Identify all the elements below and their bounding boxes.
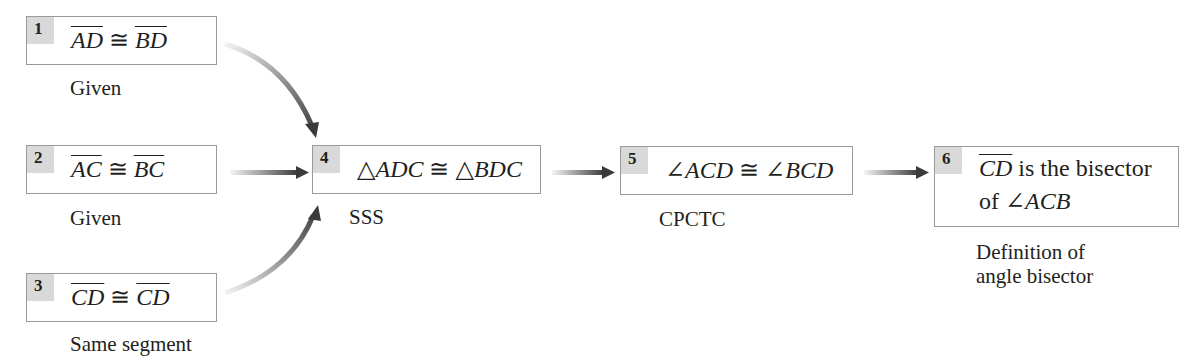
- angle-symbol: ∠: [765, 157, 785, 183]
- reason-line: Definition of: [976, 240, 1093, 264]
- angle-acb: ACB: [1025, 188, 1070, 214]
- step-statement: ∠ACD ≅ ∠BCD: [665, 156, 833, 184]
- statement-text: of: [979, 188, 999, 214]
- step-number-badge: 2: [27, 146, 54, 173]
- segment-ac: AC: [71, 156, 102, 182]
- arrow-5-to-6: [864, 166, 929, 179]
- arrow-4-to-5: [552, 166, 615, 179]
- angle-acd: ACD: [685, 157, 733, 183]
- angle-symbol: ∠: [665, 157, 685, 183]
- congruent-symbol: ≅: [739, 157, 759, 183]
- step-1-reason: Given: [70, 76, 121, 100]
- segment-ad: AD: [71, 27, 103, 53]
- step-6-reason: Definition of angle bisector: [976, 240, 1093, 288]
- angle-symbol: ∠: [1005, 188, 1025, 214]
- arrow-1-to-4: [225, 44, 319, 138]
- step-statement: CD ≅ CD: [71, 283, 170, 311]
- congruent-symbol: ≅: [109, 27, 129, 53]
- step-6-box: 6 CD is the bisector of ∠ACB: [934, 146, 1179, 227]
- step-statement: CD is the bisector of ∠ACB: [979, 153, 1152, 216]
- step-statement: AC ≅ BC: [71, 155, 164, 183]
- step-2-box: 2 AC ≅ BC: [26, 145, 217, 194]
- statement-text: is the bisector: [1018, 155, 1151, 181]
- step-2-reason: Given: [70, 206, 121, 230]
- segment-cd: CD: [136, 284, 169, 310]
- step-4-reason: SSS: [349, 205, 384, 229]
- segment-cd: CD: [979, 155, 1012, 181]
- triangle-adc: ADC: [375, 156, 423, 182]
- step-number-badge: 4: [313, 146, 340, 173]
- step-number-badge: 5: [621, 147, 648, 174]
- step-3-reason: Same segment: [70, 332, 192, 356]
- step-statement: AD ≅ BD: [71, 26, 167, 54]
- segment-bd: BD: [135, 27, 167, 53]
- step-number-badge: 1: [27, 17, 54, 44]
- congruent-symbol: ≅: [429, 156, 449, 182]
- congruent-symbol: ≅: [110, 284, 130, 310]
- congruent-symbol: ≅: [108, 156, 128, 182]
- angle-bcd: BCD: [785, 157, 833, 183]
- step-5-box: 5 ∠ACD ≅ ∠BCD: [620, 146, 853, 195]
- step-4-box: 4 △ADC ≅ △BDC: [312, 145, 541, 194]
- arrow-3-to-4: [225, 205, 321, 293]
- arrow-2-to-4: [230, 166, 309, 179]
- step-number-badge: 6: [935, 147, 962, 174]
- triangle-bdc: BDC: [474, 156, 522, 182]
- reason-line: angle bisector: [976, 264, 1093, 288]
- segment-bc: BC: [134, 156, 165, 182]
- step-number-badge: 3: [27, 274, 54, 301]
- segment-cd: CD: [71, 284, 104, 310]
- triangle-symbol: △: [455, 156, 473, 182]
- step-1-box: 1 AD ≅ BD: [26, 16, 217, 65]
- step-3-box: 3 CD ≅ CD: [26, 273, 217, 322]
- step-5-reason: CPCTC: [659, 207, 726, 231]
- step-statement: △ADC ≅ △BDC: [357, 155, 522, 183]
- triangle-symbol: △: [357, 156, 375, 182]
